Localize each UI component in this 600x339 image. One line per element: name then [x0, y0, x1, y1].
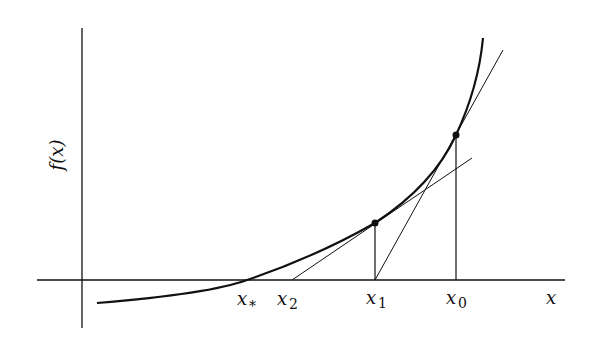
point-x1	[372, 220, 379, 227]
tangent-line-x0	[375, 50, 503, 280]
label-x2-base: x	[277, 288, 287, 309]
newton-method-diagram: f(x) x * x 2 x 1 x 0 x	[0, 0, 600, 339]
label-x0-sub: 0	[458, 295, 467, 311]
label-x0-base: x	[446, 287, 456, 308]
label-x2-sub: 2	[289, 296, 298, 312]
x-axis-label: x	[546, 287, 556, 308]
point-x0	[453, 132, 460, 139]
label-x1-sub: 1	[378, 295, 387, 311]
function-curve	[97, 38, 483, 303]
label-x-star-base: x	[237, 288, 247, 309]
tangent-line-x1	[292, 158, 472, 280]
label-x-star-sub: *	[249, 298, 256, 314]
y-axis-label: f(x)	[46, 140, 67, 173]
label-x1-base: x	[366, 287, 376, 308]
